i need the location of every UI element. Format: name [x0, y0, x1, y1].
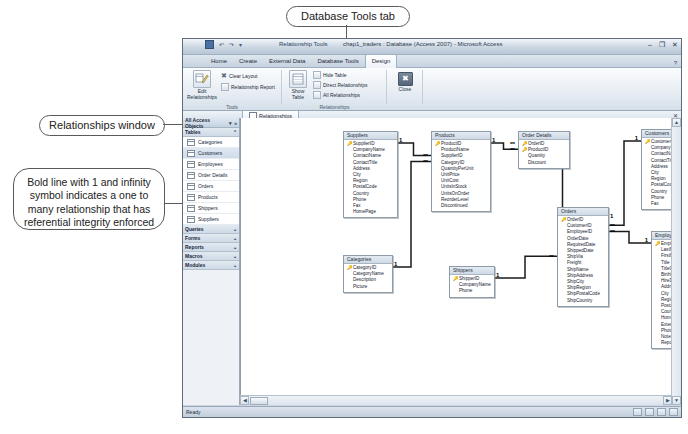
ribbon-tab-bar[interactable]: Home Create External Data Database Tools… — [183, 55, 681, 68]
close-window-button[interactable]: ✕ — [672, 40, 678, 50]
canvas-horizontal-scrollbar[interactable]: ◀ ▶ — [240, 395, 672, 405]
direct-relationships-button[interactable]: Direct Relationships — [313, 81, 367, 89]
nav-group-macros-expand-icon[interactable]: ⌄ — [233, 253, 237, 259]
edit-relationships-label: EditRelationships — [187, 89, 217, 100]
table-icon — [187, 172, 195, 179]
nav-group-tables[interactable]: Tables ⌃ — [183, 128, 239, 137]
quick-access-toolbar[interactable]: ↶ ↷ ▾ — [205, 40, 242, 49]
table-box-title[interactable]: Categories — [344, 256, 392, 264]
nav-group-queries-expand-icon[interactable]: ⌄ — [233, 226, 237, 232]
save-icon[interactable] — [205, 40, 214, 49]
table-box-title[interactable]: Products — [432, 132, 490, 140]
field-row[interactable]: ShipCountry — [558, 298, 606, 304]
scroll-down-arrow-icon[interactable]: ▼ — [672, 396, 681, 405]
table-box-title[interactable]: Suppliers — [344, 132, 397, 140]
customize-qat-icon[interactable]: ▾ — [239, 41, 242, 48]
table-box-shippers[interactable]: ShippersShipperIDCompanyNamePhone — [449, 266, 495, 298]
relationship-line-shippers-to-orders[interactable] — [493, 256, 557, 278]
chevron-down-icon[interactable]: ▾ — [229, 120, 232, 126]
table-box-order-details[interactable]: Order DetailsOrderIDProductIDQuantityDis… — [518, 131, 570, 169]
nav-group-reports[interactable]: Reports ⌄ — [183, 243, 239, 252]
layout-view-icon[interactable] — [657, 408, 666, 416]
table-box-field-list: CategoryIDCategoryNameDescriptionPicture — [344, 264, 392, 292]
table-box-customers[interactable]: CustomersCustomerIDCompanyNameContactNam… — [641, 129, 672, 210]
many-side-marker: ∞ — [549, 252, 554, 259]
tab-create[interactable]: Create — [233, 55, 263, 67]
nav-item-shippers[interactable]: Shippers — [183, 203, 239, 214]
field-row[interactable]: ReportsTo — [652, 340, 672, 346]
field-row[interactable]: Phone — [450, 288, 492, 294]
table-box-employees[interactable]: EmployeesEmployeeIDLastNameFirstNameTitl… — [651, 231, 672, 349]
redo-icon[interactable]: ↷ — [229, 41, 234, 48]
nav-item-employees[interactable]: Employees — [183, 159, 239, 170]
hide-table-button[interactable]: Hide Table — [313, 71, 347, 79]
nav-group-tables-collapse-icon[interactable]: ⌃ — [233, 129, 237, 135]
table-box-products[interactable]: ProductsProductIDProductNameSupplierIDCa… — [431, 131, 491, 212]
nav-item-categories[interactable]: Categories — [183, 137, 239, 148]
scroll-left-arrow-icon[interactable]: ◀ — [240, 396, 249, 405]
status-text: Ready — [186, 409, 200, 415]
nav-item-customers[interactable]: Customers — [183, 148, 239, 159]
contextual-tab-title: Relationship Tools — [279, 41, 328, 47]
nav-group-queries[interactable]: Queries ⌄ — [183, 225, 239, 234]
table-box-title[interactable]: Customers — [642, 130, 672, 138]
field-row[interactable]: Discontinued — [432, 203, 488, 209]
datasheet-view-icon[interactable] — [645, 408, 654, 416]
nav-item-orders[interactable]: Orders — [183, 181, 239, 192]
table-box-categories[interactable]: CategoriesCategoryIDCategoryNameDescript… — [343, 255, 393, 293]
nav-group-macros[interactable]: Macros ⌄ — [183, 252, 239, 261]
one-side-marker: 1 — [496, 272, 500, 278]
table-box-title[interactable]: Employees — [652, 232, 672, 240]
one-side-marker: 1 — [610, 213, 614, 219]
help-icon[interactable]: ? — [674, 60, 677, 66]
canvas-vertical-scrollbar[interactable]: ▲ ▼ — [671, 118, 681, 405]
relationships-canvas[interactable]: 1∞1∞1∞1∞1∞1∞1∞ SuppliersSupplierIDCompan… — [240, 118, 672, 405]
table-box-orders[interactable]: OrdersOrderIDCustomerIDEmployeeIDOrderDa… — [557, 207, 609, 307]
undo-icon[interactable]: ↶ — [219, 41, 224, 48]
show-table-button[interactable]: ShowTable — [286, 70, 310, 100]
nav-item-products[interactable]: Products — [183, 192, 239, 203]
nav-group-modules[interactable]: Modules ⌄ — [183, 261, 239, 270]
nav-group-forms-expand-icon[interactable]: ⌄ — [233, 235, 237, 241]
clear-layout-button[interactable]: ✖ Clear Layout — [221, 73, 257, 79]
shutter-bar-icon[interactable]: « — [234, 120, 237, 126]
tab-home[interactable]: Home — [205, 55, 233, 67]
field-row[interactable]: Discount — [519, 160, 567, 166]
scroll-right-arrow-icon[interactable]: ▶ — [663, 396, 672, 405]
relationship-report-button[interactable]: Relationship Report — [221, 83, 275, 91]
ribbon-separator-2 — [386, 70, 387, 104]
callout-database-tools-tab: Database Tools tab — [286, 6, 410, 27]
field-row[interactable]: HomePage — [344, 209, 395, 215]
table-box-title[interactable]: Order Details — [519, 132, 569, 140]
navigation-pane-header[interactable]: All Access Objects ▾ « — [183, 118, 239, 128]
field-row[interactable]: Picture — [344, 284, 390, 290]
horizontal-scroll-thumb[interactable] — [250, 397, 268, 405]
nav-item-order-details[interactable]: Order Details — [183, 170, 239, 181]
table-box-title[interactable]: Shippers — [450, 267, 494, 275]
tab-database-tools[interactable]: Database Tools — [311, 55, 364, 67]
view-shortcuts[interactable] — [633, 408, 678, 416]
window-controls[interactable]: – ❐ ✕ — [648, 40, 678, 50]
nav-group-forms[interactable]: Forms ⌄ — [183, 234, 239, 243]
edit-relationships-button[interactable]: EditRelationships — [187, 70, 217, 100]
table-box-title[interactable]: Orders — [558, 208, 608, 216]
table-box-field-list: OrderIDCustomerIDEmployeeIDOrderDateRequ… — [558, 216, 608, 306]
all-relationships-button[interactable]: All Relationships — [313, 91, 360, 99]
table-box-suppliers[interactable]: SuppliersSupplierIDCompanyNameContactNam… — [343, 131, 398, 218]
nav-group-tables-label: Tables — [185, 129, 200, 135]
nav-group-reports-expand-icon[interactable]: ⌄ — [233, 244, 237, 250]
tab-external-data[interactable]: External Data — [263, 55, 311, 67]
scroll-up-arrow-icon[interactable]: ▲ — [672, 118, 681, 127]
form-view-icon[interactable] — [669, 408, 678, 416]
nav-item-suppliers[interactable]: Suppliers — [183, 214, 239, 225]
many-side-marker: ∞ — [510, 145, 515, 152]
design-view-icon[interactable] — [633, 408, 642, 416]
minimize-button[interactable]: – — [648, 40, 652, 50]
many-side-marker: ∞ — [610, 227, 615, 234]
restore-button[interactable]: ❐ — [659, 40, 665, 50]
field-row[interactable]: Fax — [642, 201, 672, 207]
tab-design[interactable]: Design — [365, 54, 398, 68]
table-box-field-list: EmployeeIDLastNameFirstNameTitleTitleOfC… — [652, 240, 672, 348]
close-relationships-button[interactable]: ✖ Close — [392, 72, 418, 93]
nav-group-modules-expand-icon[interactable]: ⌄ — [233, 262, 237, 268]
